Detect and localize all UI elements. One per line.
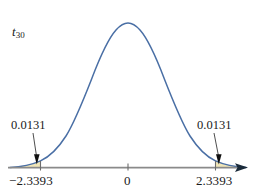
x-tick-label-zero: 0 <box>124 174 131 187</box>
right-tail-area-label: 0.0131 <box>197 119 231 132</box>
distribution-label-subscript: 30 <box>16 30 25 40</box>
right-area-leader <box>214 133 222 165</box>
t-distribution-figure: t30 0.0131 0.0131 −2.3393 0 2.3393 <box>0 0 255 195</box>
x-tick-label-negative-critical: −2.3393 <box>9 174 53 187</box>
left-tail-area-label: 0.0131 <box>11 119 45 132</box>
left-area-leader <box>33 133 40 165</box>
density-curve <box>10 23 246 167</box>
plot-canvas <box>0 0 255 195</box>
x-tick-label-positive-critical: 2.3393 <box>196 174 232 187</box>
distribution-label: t30 <box>12 25 25 40</box>
